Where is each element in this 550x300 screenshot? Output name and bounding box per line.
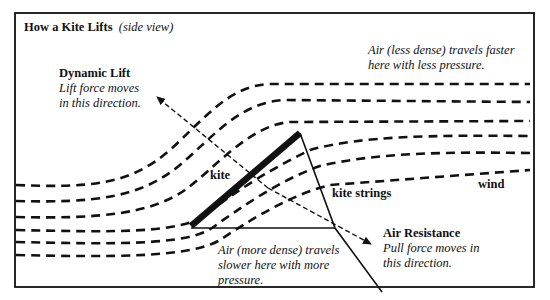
kite-strings-label: kite strings [332,186,391,201]
title-main: How a Kite Lifts [24,20,113,34]
kite-label: kite [210,168,230,183]
air-resistance-line2: this direction. [383,256,479,271]
upper-air-line2: here with less pressure. [368,58,515,73]
dynamic-lift-line2: in this direction. [59,96,141,111]
diagram-title: How a Kite Lifts (side view) [24,20,173,35]
wind-label: wind [478,177,504,192]
dynamic-lift-heading: Dynamic Lift [59,66,141,81]
lower-air-label: Air (more dense) travels slower here wit… [218,243,339,288]
lower-air-line3: pressure. [218,273,339,288]
dynamic-lift-line1: Lift force moves [59,81,141,96]
air-resistance-label: Air Resistance Pull force moves in this … [383,226,479,271]
kite-body [191,133,300,226]
kite-lift-diagram: How a Kite Lifts (side view) Dynamic Lif… [0,0,550,300]
lower-air-line1: Air (more dense) travels [218,243,339,258]
title-sub: (side view) [119,20,174,34]
dynamic-lift-label: Dynamic Lift Lift force moves in this di… [59,66,141,111]
air-resistance-heading: Air Resistance [383,226,479,241]
upper-air-label: Air (less dense) travels faster here wit… [368,43,515,73]
lower-air-line2: slower here with more [218,258,339,273]
upper-air-line1: Air (less dense) travels faster [368,43,515,58]
streamline-2 [16,100,530,201]
air-resistance-line1: Pull force moves in [383,241,479,256]
